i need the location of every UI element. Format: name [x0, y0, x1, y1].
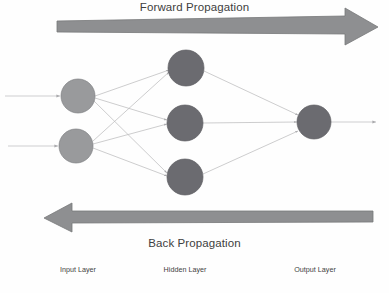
output-node-1[interactable]	[297, 105, 331, 139]
connection-i1-h1	[95, 70, 169, 96]
forward-arrow-shape	[57, 8, 378, 45]
connection-h3-o1	[203, 131, 298, 174]
connections-hidden-output	[203, 71, 298, 174]
input-layer-nodes	[59, 79, 95, 163]
forward-propagation-arrow	[57, 8, 378, 45]
input-feed-arrows	[5, 96, 60, 146]
back-arrow-shape	[44, 203, 373, 232]
hidden-layer-label: Hidden Layer	[135, 265, 235, 274]
connection-i2-h1	[93, 72, 169, 141]
back-propagation-arrow	[44, 203, 373, 232]
connection-h1-o1	[204, 71, 298, 115]
connections-input-hidden	[93, 70, 169, 176]
back-propagation-label: Back Propagation	[0, 237, 389, 249]
connection-h2-o1	[203, 122, 297, 123]
hidden-node-3[interactable]	[167, 159, 203, 195]
forward-propagation-label: Forward Propagation	[0, 1, 389, 13]
hidden-layer-nodes	[167, 50, 204, 195]
neural-network-diagram: Forward Propagation Back Propagation Inp…	[0, 0, 389, 293]
input-layer-label: Input Layer	[28, 265, 128, 274]
connection-i1-h2	[95, 98, 167, 120]
input-node-2[interactable]	[59, 129, 93, 163]
input-node-1[interactable]	[61, 79, 95, 113]
hidden-node-1[interactable]	[168, 50, 204, 86]
output-layer-label: Output Layer	[265, 265, 365, 274]
hidden-node-2[interactable]	[167, 105, 203, 141]
output-layer-nodes	[297, 105, 331, 139]
connection-i2-h2	[93, 124, 167, 144]
network-canvas	[0, 0, 389, 293]
